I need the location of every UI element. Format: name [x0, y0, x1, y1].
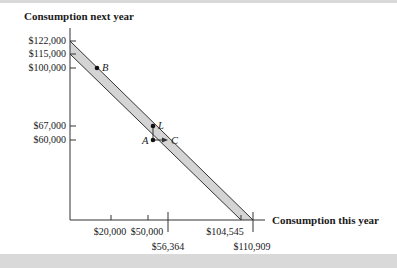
x-tick-20000: $20,000 [94, 226, 127, 237]
point-a [151, 138, 156, 143]
x-tick-110909: $110,909 [233, 241, 270, 252]
lower-budget-line [70, 54, 241, 220]
y-tick-122000: $122,000 [29, 35, 67, 46]
label-l: L [157, 120, 164, 131]
label-b: B [102, 62, 109, 73]
label-a: A [141, 135, 149, 146]
x-axis-title: Consumption this year [272, 214, 379, 226]
x-tick-56364: $56,364 [152, 241, 185, 252]
y-tick-60000: $60,000 [34, 134, 67, 145]
budget-chart: Consumption next year Consumption this y… [0, 0, 397, 268]
x-tick-104545: $104,545 [206, 226, 244, 237]
y-tick-100000: $100,000 [29, 62, 67, 73]
y-tick-115000: $115,000 [29, 48, 66, 59]
x-tick-50000: $50,000 [131, 226, 164, 237]
point-b [95, 66, 100, 71]
point-l [151, 124, 156, 129]
label-c: C [171, 135, 179, 146]
y-axis-title: Consumption next year [24, 10, 134, 22]
y-tick-67000: $67,000 [34, 120, 67, 131]
